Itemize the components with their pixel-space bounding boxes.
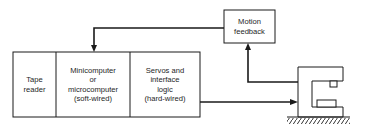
- label-line: microcomputer: [68, 85, 118, 94]
- label-line: Tape: [26, 75, 42, 84]
- spindle-icon: [330, 81, 337, 87]
- feedback-to-computer-line: [94, 28, 224, 47]
- arrowhead-right-icon: [290, 99, 298, 105]
- tape-reader-label: Tape reader: [13, 52, 56, 117]
- label-line: logic: [157, 85, 173, 94]
- label-line: Motion: [238, 17, 261, 26]
- label-line: Servos and: [146, 66, 184, 75]
- computer-label: Minicomputer or microcomputer (soft-wire…: [56, 52, 130, 117]
- machine-tool-icon: [298, 67, 343, 117]
- machine-to-feedback-line: [248, 49, 298, 82]
- servos-label: Servos and interface logic (hard-wired): [130, 52, 200, 117]
- label-line: interface: [150, 75, 179, 84]
- motion-feedback-label: Motion feedback: [224, 10, 275, 43]
- label-line: (soft-wired): [74, 94, 112, 103]
- label-line: feedback: [234, 27, 265, 36]
- label-line: or: [90, 75, 97, 84]
- arrowhead-up-icon: [245, 43, 251, 50]
- label-line: (hard-wired): [145, 94, 186, 103]
- label-line: reader: [24, 85, 46, 94]
- arrowhead-down-icon: [91, 45, 97, 52]
- workpiece-icon: [317, 100, 336, 107]
- label-line: Minicomputer: [70, 66, 116, 75]
- ground-hatch: [287, 118, 350, 124]
